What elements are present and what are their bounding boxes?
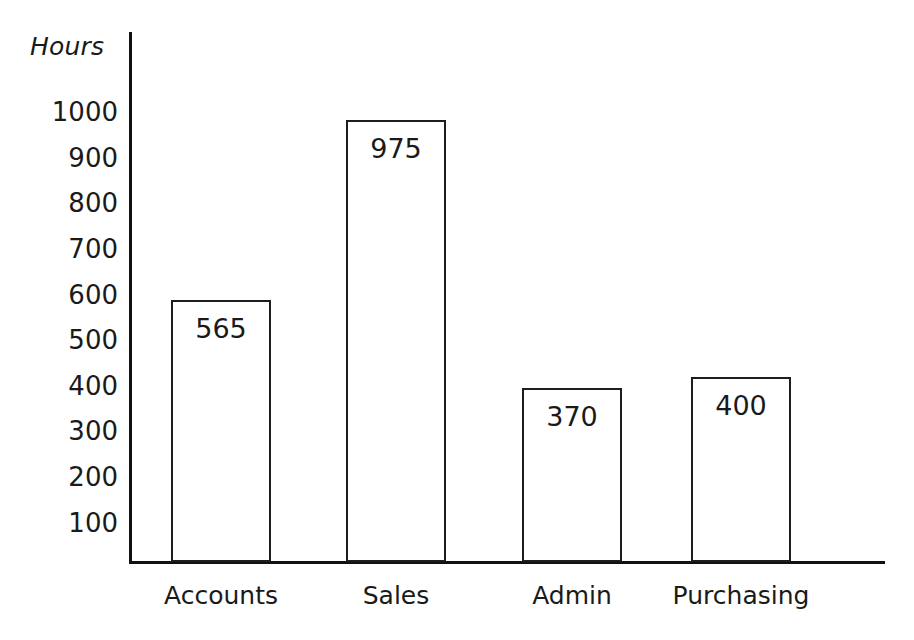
category-label-purchasing: Purchasing	[661, 581, 821, 611]
bar-admin[interactable]: 370	[522, 388, 622, 562]
bar-value-label: 370	[524, 402, 620, 432]
bar-value-label: 400	[693, 391, 789, 421]
plot-area: 565 975 370 400	[0, 0, 914, 640]
bar-sales[interactable]: 975	[346, 120, 446, 562]
bar-value-label: 975	[348, 134, 444, 164]
bar-accounts[interactable]: 565	[171, 300, 271, 562]
bar-value-label: 565	[173, 314, 269, 344]
category-label-accounts: Accounts	[141, 581, 301, 611]
category-label-sales: Sales	[316, 581, 476, 611]
bar-chart: Hours 1000 900 800 700 600 500 400 300 2…	[0, 0, 914, 640]
category-label-admin: Admin	[492, 581, 652, 611]
bar-purchasing[interactable]: 400	[691, 377, 791, 562]
